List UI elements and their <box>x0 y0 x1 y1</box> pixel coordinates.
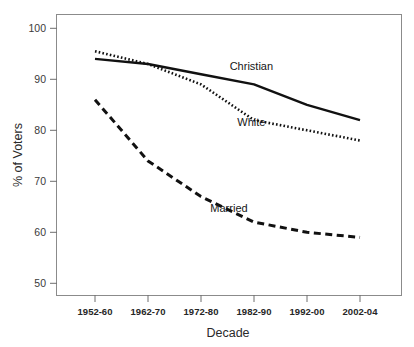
x-axis-title: Decade <box>206 326 249 340</box>
series-line-married <box>95 100 360 238</box>
y-tick-label-90: 90 <box>34 73 46 85</box>
y-tick-label-50: 50 <box>34 277 46 289</box>
x-category-label-1952-60: 1952-60 <box>78 306 113 317</box>
y-axis-tick-labels: 5060708090100 <box>28 22 46 289</box>
y-axis-title: % of Voters <box>11 123 25 187</box>
chart-figure: 5060708090100 1952-601962-701972-801982-… <box>0 0 414 347</box>
x-category-label-1992-00: 1992-00 <box>290 306 325 317</box>
x-category-label-1972-80: 1972-80 <box>184 306 219 317</box>
y-axis-ticks <box>50 28 57 283</box>
x-category-label-1962-70: 1962-70 <box>131 306 166 317</box>
plot-frame <box>57 15 402 296</box>
y-tick-label-70: 70 <box>34 175 46 187</box>
y-tick-label-60: 60 <box>34 226 46 238</box>
y-tick-label-80: 80 <box>34 124 46 136</box>
series-line-white <box>95 51 360 140</box>
x-axis-category-labels: 1952-601962-701972-801982-901992-002002-… <box>78 306 379 317</box>
y-tick-label-100: 100 <box>28 22 46 34</box>
x-category-label-2002-04: 2002-04 <box>343 306 379 317</box>
series-label-married: Married <box>210 202 247 214</box>
line-chart-canvas: 5060708090100 1952-601962-701972-801982-… <box>0 0 414 347</box>
series-label-christian: Christian <box>230 60 273 72</box>
series-label-white: White <box>237 116 265 128</box>
x-category-label-1982-90: 1982-90 <box>237 306 272 317</box>
x-axis-ticks <box>95 295 360 302</box>
series-line-christian <box>95 59 360 120</box>
